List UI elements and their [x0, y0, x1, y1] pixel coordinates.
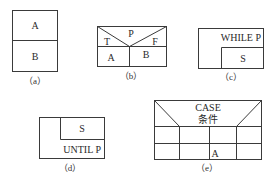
- case-cell-a: A: [211, 148, 219, 159]
- sequence-step-b: B: [32, 51, 39, 62]
- while-body: S: [240, 53, 246, 64]
- caption-e: （e）: [196, 163, 218, 173]
- selection-diagonal-left: [98, 27, 130, 47]
- selection-condition: P: [128, 28, 134, 39]
- case-diagonal-left: [155, 101, 180, 127]
- while-condition: WHILE P: [221, 32, 262, 43]
- until-condition: UNTIL P: [63, 144, 101, 155]
- false-branch: B: [143, 49, 150, 60]
- diagram-c-while-loop: WHILE P S （c）: [199, 29, 264, 83]
- caption-c: （c）: [220, 72, 242, 82]
- case-diagonal-right: [237, 101, 262, 127]
- case-header: CASE: [195, 102, 221, 113]
- caption-a: （a）: [24, 76, 46, 86]
- true-branch: A: [107, 52, 115, 63]
- true-label: T: [104, 36, 110, 47]
- case-condition: 条件: [198, 113, 218, 125]
- sequence-step-a: A: [31, 20, 39, 31]
- until-body: S: [79, 123, 85, 134]
- diagram-e-case: CASE 条件 A （e）: [155, 101, 262, 174]
- diagram-d-until-loop: S UNTIL P （d）: [40, 118, 105, 174]
- nassi-shneiderman-diagrams: A B （a） P T F A B （b） WHILE P S （c） S UN…: [0, 0, 276, 181]
- false-label: F: [152, 36, 158, 47]
- selection-diagonal-right: [130, 27, 167, 47]
- diagram-a-sequence: A B （a）: [13, 11, 58, 87]
- caption-d: （d）: [59, 163, 82, 173]
- caption-b: （b）: [120, 71, 143, 81]
- diagram-b-selection: P T F A B （b）: [98, 27, 167, 82]
